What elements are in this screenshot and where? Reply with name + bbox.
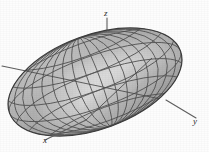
y-axis-label: y bbox=[193, 117, 197, 126]
ellipsoid-surface-plot bbox=[0, 0, 209, 152]
z-axis-label: z bbox=[104, 9, 108, 18]
ellipsoid-figure: z y x bbox=[0, 0, 209, 152]
x-axis-label: x bbox=[43, 136, 47, 145]
y-axis-line bbox=[166, 100, 196, 118]
y-axis-far-stub bbox=[2, 66, 26, 71]
